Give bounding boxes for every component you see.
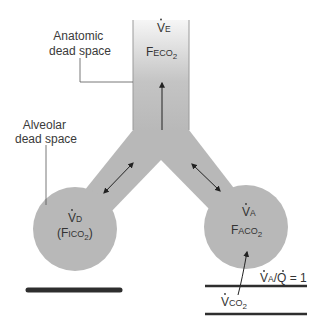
capillaries: [28, 286, 307, 314]
va-q-ratio-label: VA/Q = 1: [260, 270, 307, 285]
svg-text:VCO2: VCO2: [221, 295, 248, 311]
svg-text:VD: VD: [68, 211, 82, 225]
svg-text:VA: VA: [242, 205, 256, 219]
svg-text:VA/Q = 1: VA/Q = 1: [260, 271, 307, 285]
trachea: [133, 20, 189, 132]
dead-space-diagram: Anatomic dead space Alveolar dead space …: [0, 0, 324, 329]
svg-text:VE: VE: [157, 21, 171, 35]
vco2-label: VCO2: [221, 293, 248, 311]
anatomic-dead-space-leader: [80, 58, 133, 82]
alveolar-dead-space-label: Alveolar dead space: [15, 118, 77, 146]
anatomic-dead-space-label: Anatomic dead space: [49, 29, 111, 58]
